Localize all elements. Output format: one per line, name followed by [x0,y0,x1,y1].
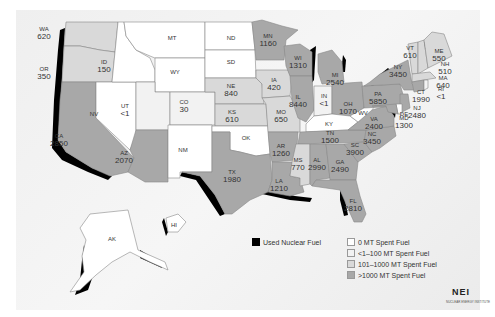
legend-item-1: <1–100 MT Spent Fuel [347,249,429,257]
legend-swatch-0 [347,238,355,246]
state-value: 2070 [115,157,133,165]
state-label-ms: MS770 [291,156,304,172]
state-label-al: AL2990 [308,156,326,172]
state-abbr: KY [325,120,333,128]
state-value: 840 [224,90,237,98]
legend-used-fuel-label: Used Nuclear Fuel [263,239,321,246]
state-abbr: AK [108,235,116,243]
state-label-hi: HI [171,221,177,229]
legend-item-0: 0 MT Spent Fuel [347,238,410,246]
state-value: 8440 [289,101,307,109]
state-value: <1 [319,100,328,108]
state-label-ny: NY3450 [389,63,407,79]
state-value: <1 [120,110,129,118]
state-abbr: MT [168,34,177,42]
state-value: 610 [225,116,238,124]
state-label-ne: NE840 [224,82,237,98]
state-value: 350 [37,73,50,81]
state-label-mt: MT [168,34,177,42]
state-abbr: WY [170,68,180,76]
state-label-mi: MI2540 [326,71,344,87]
state-value: 1500 [321,137,339,145]
state-label-ak: AK [108,235,116,243]
state-label-ri: RI<1 [436,85,445,101]
state-value: 2990 [308,164,326,172]
state-value: 610 [403,52,416,60]
state-label-il: IL8440 [289,93,307,109]
state-value: 1160 [259,40,276,48]
state-value: 650 [274,116,287,124]
legend-label-3: >1000 MT Spent Fuel [358,272,425,279]
state-label-sd: SD [227,58,235,66]
state-KS[interactable] [215,104,268,126]
state-label-ga: GA2490 [331,158,349,174]
state-value: 1980 [223,176,241,184]
state-value: 1990 [412,96,430,104]
legend-swatch-1 [347,249,355,257]
state-value: 150 [97,66,110,74]
state-label-tx: TX1980 [223,168,241,184]
state-label-sc: SC3900 [346,141,364,157]
used-fuel-swatch [252,238,260,246]
state-abbr: NV [90,110,98,118]
state-label-in: IN<1 [319,92,328,108]
state-label-id: ID150 [97,58,110,74]
legend-label-0: 0 MT Spent Fuel [358,239,410,246]
state-NM[interactable] [168,125,212,178]
state-label-md: MD1300 [395,114,413,130]
state-value: 2810 [344,205,362,213]
state-label-ks: KS610 [225,108,238,124]
nei-logo-subtitle: NUCLEAR ENERGY INSTITUTE [446,300,490,304]
state-value: 1070 [339,108,357,116]
state-abbr: WV [358,109,368,117]
state-label-ok: OK [242,134,251,142]
state-value: 620 [37,33,50,41]
legend-label-2: 101–1000 MT Spent Fuel [358,261,437,268]
state-label-wi: WI1310 [289,54,307,70]
state-label-wa: WA620 [37,25,50,41]
state-label-az: AZ2070 [115,149,133,165]
us-map [0,0,495,317]
state-value: 3900 [346,149,364,157]
state-AZ[interactable] [128,130,168,182]
state-value: 770 [291,164,304,172]
state-label-or: OR350 [37,65,50,81]
state-label-fl: FL2810 [344,197,362,213]
state-abbr: NM [178,146,187,154]
state-CO[interactable] [170,92,215,125]
state-label-ia: IA420 [267,76,280,92]
state-value: 5850 [369,98,387,106]
state-label-ar: AR1260 [272,142,290,158]
state-label-nd: ND [227,34,236,42]
state-label-oh: OH1070 [339,100,357,116]
state-label-ct: CT1990 [412,88,430,104]
legend-item-2: 101–1000 MT Spent Fuel [347,260,437,268]
state-value: 1260 [272,150,290,158]
state-value: 3450 [389,71,407,79]
nei-logo: NEI [452,287,470,297]
state-label-mn: MN1160 [259,32,276,48]
state-label-ky: KY [325,120,333,128]
state-value: 1300 [395,122,413,130]
state-abbr: OK [242,134,251,142]
state-value: 2490 [331,166,349,174]
state-label-wy: WY [170,68,180,76]
state-label-ca: CA2850 [50,132,68,148]
state-AK[interactable] [70,210,168,292]
state-label-pa: PA5850 [369,90,387,106]
state-value: 1310 [289,62,307,70]
state-abbr: ND [227,34,236,42]
legend-used-fuel: Used Nuclear Fuel [252,238,321,246]
state-value: 2400 [365,123,383,131]
state-value: 420 [267,84,280,92]
state-WY[interactable] [155,58,205,92]
state-value: 2540 [326,79,344,87]
state-label-va: VA2400 [365,115,383,131]
legend-swatch-2 [347,260,355,268]
state-abbr: HI [171,221,177,229]
state-label-la: LA1210 [270,177,288,193]
state-value: <1 [436,93,445,101]
state-value: 2850 [50,140,68,148]
state-label-co: CO30 [180,98,189,114]
state-label-mo: MO650 [274,108,287,124]
